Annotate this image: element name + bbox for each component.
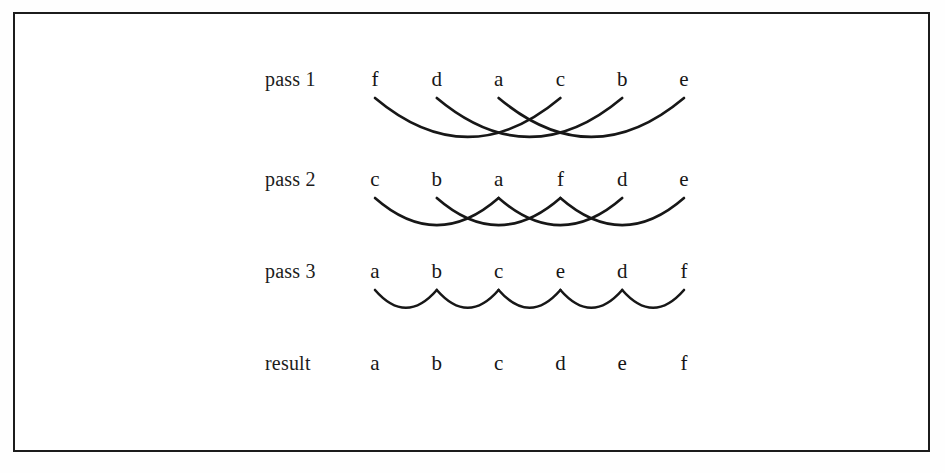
row-label: pass 1 — [265, 68, 316, 91]
comparison-arc — [437, 198, 561, 225]
sequence-item: a — [494, 67, 504, 91]
comparison-arc — [437, 98, 622, 137]
sorting-passes-diagram: pass 1fdacbepass 2cbafdepass 3abcedfresu… — [0, 0, 945, 473]
sequence-item: b — [432, 167, 443, 191]
sequence-item: f — [681, 259, 688, 283]
sequence-item: a — [370, 259, 380, 283]
sequence-item: c — [494, 351, 503, 375]
sequence-item: a — [370, 351, 380, 375]
sequence-item: f — [681, 351, 688, 375]
diagram-row: pass 3abcedf — [265, 259, 688, 308]
sequence-item: c — [370, 167, 379, 191]
sequence-item: e — [618, 351, 627, 375]
sequence-item: d — [555, 351, 566, 375]
comparison-arc — [622, 290, 684, 308]
comparison-arc — [375, 290, 437, 308]
sequence-item: c — [556, 67, 565, 91]
comparison-arc — [437, 290, 499, 308]
sequence-item: d — [617, 259, 628, 283]
figure-root: pass 1fdacbepass 2cbafdepass 3abcedfresu… — [0, 0, 945, 473]
sequence-item: e — [556, 259, 565, 283]
diagram-row: resultabcdef — [265, 351, 688, 375]
row-label: result — [265, 352, 311, 374]
sequence-item: a — [494, 167, 504, 191]
sequence-item: e — [679, 167, 688, 191]
sequence-item: b — [432, 351, 443, 375]
sequence-item: f — [372, 67, 379, 91]
diagram-row: pass 1fdacbe — [265, 67, 689, 137]
comparison-arc — [499, 290, 561, 308]
sequence-item: d — [432, 67, 443, 91]
comparison-arc — [560, 198, 684, 225]
sequence-item: b — [617, 67, 628, 91]
comparison-arc — [560, 290, 622, 308]
comparison-arc — [499, 198, 623, 225]
row-label: pass 2 — [265, 168, 316, 191]
row-label: pass 3 — [265, 260, 316, 283]
sequence-item: b — [432, 259, 443, 283]
comparison-arc — [375, 198, 499, 225]
sequence-item: c — [494, 259, 503, 283]
sequence-item: f — [557, 167, 564, 191]
sequence-item: e — [679, 67, 688, 91]
diagram-row: pass 2cbafde — [265, 167, 689, 225]
comparison-arc — [499, 98, 684, 137]
comparison-arc — [375, 98, 560, 137]
sequence-item: d — [617, 167, 628, 191]
